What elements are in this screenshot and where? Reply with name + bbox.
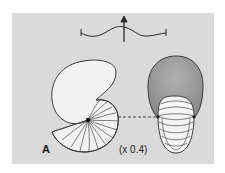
scale-label: (x 0.4) bbox=[119, 144, 147, 155]
shell-side-view-icon bbox=[52, 60, 119, 152]
orientation-symbol-icon bbox=[81, 16, 166, 42]
shell-front-view-icon bbox=[148, 56, 203, 153]
figure-drawing bbox=[0, 0, 225, 173]
panel-label: A bbox=[42, 143, 50, 155]
